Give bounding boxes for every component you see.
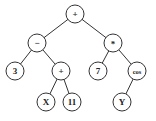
node-plus-inner: +	[52, 62, 70, 80]
expression-tree-diagram: + − * 3 + 7 co	[0, 0, 156, 121]
svg-text:X: X	[43, 97, 50, 107]
node-3: 3	[6, 62, 24, 80]
svg-text:cos: cos	[133, 68, 142, 75]
svg-text:3: 3	[13, 66, 18, 76]
svg-text:−: −	[34, 38, 39, 48]
node-cos: cos	[128, 62, 146, 80]
svg-text:Y: Y	[119, 97, 126, 107]
svg-text:7: 7	[96, 66, 101, 76]
svg-text:+: +	[58, 66, 63, 76]
node-times: *	[104, 34, 122, 52]
svg-text:*: *	[111, 39, 116, 49]
svg-text:+: +	[72, 9, 77, 19]
node-minus: −	[28, 34, 46, 52]
node-7: 7	[89, 62, 107, 80]
node-11: 11	[63, 93, 81, 111]
node-y: Y	[113, 93, 131, 111]
tree-edges	[15, 14, 137, 102]
node-root-plus: +	[66, 5, 84, 23]
node-x: X	[37, 93, 55, 111]
svg-text:11: 11	[68, 97, 77, 107]
